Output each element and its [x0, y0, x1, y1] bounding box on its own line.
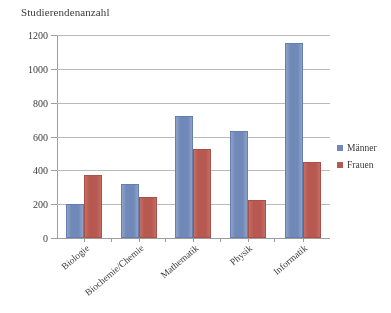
- bar-informatik-männer: [285, 43, 303, 238]
- x-axis-label-informatik: Informatik: [272, 243, 310, 277]
- x-label-slot-4: Informatik: [275, 241, 330, 307]
- bar-biologie-männer: [66, 204, 84, 238]
- bar-biochemie-chemie-frauen: [139, 197, 157, 238]
- plot-area: 020040060080010001200: [57, 35, 330, 238]
- x-axis-label-physik: Physik: [228, 243, 254, 267]
- bar-physik-frauen: [248, 200, 266, 238]
- legend-label: Männer: [347, 143, 377, 153]
- chart-title: Studierendenanzahl: [21, 6, 110, 18]
- x-label-slot-2: Mathematik: [166, 241, 221, 307]
- bar-informatik-frauen: [303, 162, 321, 238]
- bar-group-informatik: [275, 35, 330, 238]
- legend-item-frauen[interactable]: Frauen: [337, 160, 377, 170]
- bar-biochemie-chemie-männer: [121, 184, 139, 238]
- legend-label: Frauen: [347, 160, 373, 170]
- bar-mathematik-männer: [175, 116, 193, 238]
- bar-group-mathematik: [166, 35, 221, 238]
- legend-item-männer[interactable]: Männer: [337, 143, 377, 153]
- legend-swatch-icon-männer: [337, 145, 343, 151]
- y-tick-0: [51, 238, 57, 239]
- bar-group-biologie: [57, 35, 112, 238]
- bar-chart: Studierendenanzahl 020040060080010001200…: [0, 0, 391, 313]
- y-tick-label-200: 200: [33, 199, 48, 210]
- bar-groups: [57, 35, 330, 238]
- bar-mathematik-frauen: [193, 149, 211, 238]
- y-tick-label-1000: 1000: [28, 63, 48, 74]
- y-tick-label-400: 400: [33, 165, 48, 176]
- y-tick-label-1200: 1200: [28, 30, 48, 41]
- legend-swatch-icon-frauen: [337, 162, 343, 168]
- y-tick-label-800: 800: [33, 97, 48, 108]
- bar-group-physik: [221, 35, 276, 238]
- y-tick-label-600: 600: [33, 131, 48, 142]
- bar-group-biochemie-chemie: [112, 35, 167, 238]
- x-label-slot-3: Physik: [221, 241, 276, 307]
- bar-physik-männer: [230, 131, 248, 238]
- y-tick-label-0: 0: [43, 233, 48, 244]
- x-axis-label-biologie: Biologie: [59, 243, 91, 272]
- x-label-slot-1: Biochemie/Chemie: [112, 241, 167, 307]
- x-axis-labels: BiologieBiochemie/ChemieMathematikPhysik…: [57, 241, 330, 307]
- chart-legend: MännerFrauen: [337, 143, 377, 170]
- bar-biologie-frauen: [84, 175, 102, 238]
